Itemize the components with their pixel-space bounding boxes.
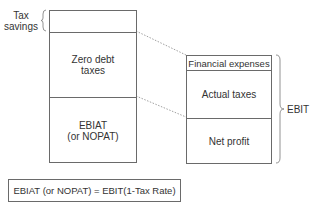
zero-debt-label-line1: Zero debt <box>72 54 115 65</box>
actual-taxes-segment: Actual taxes <box>187 70 271 118</box>
tax-savings-segment <box>50 11 136 32</box>
formula-box: EBIAT (or NOPAT) = EBIT(1-Tax Rate) <box>8 179 181 202</box>
zero-debt-taxes-segment: Zero debt taxes <box>50 32 136 97</box>
tax-savings-label-line2: savings <box>2 21 40 32</box>
tax-savings-label: Tax savings <box>2 10 40 32</box>
ebiat-label-line2: (or NOPAT) <box>67 131 118 142</box>
tax-savings-brace <box>41 10 46 31</box>
right-stack-box: Financial expenses Actual taxes Net prof… <box>186 55 272 164</box>
dotted-connector-top <box>136 31 186 55</box>
actual-taxes-label: Actual taxes <box>202 89 256 100</box>
ebit-brace <box>276 55 284 163</box>
net-profit-label: Net profit <box>209 136 250 147</box>
tax-savings-label-line1: Tax <box>2 10 40 21</box>
net-profit-segment: Net profit <box>187 118 271 164</box>
zero-debt-label-line2: taxes <box>72 65 115 76</box>
left-stack-box: Zero debt taxes EBIAT (or NOPAT) <box>49 10 137 163</box>
dotted-connector-bottom <box>136 96 186 117</box>
ebiat-label-line1: EBIAT <box>67 120 118 131</box>
ebit-label: EBIT <box>287 104 309 115</box>
financial-expenses-segment: Financial expenses <box>187 56 271 70</box>
formula-text: EBIAT (or NOPAT) = EBIT(1-Tax Rate) <box>13 185 175 196</box>
financial-expenses-label: Financial expenses <box>188 58 269 69</box>
ebiat-segment: EBIAT (or NOPAT) <box>50 97 136 163</box>
